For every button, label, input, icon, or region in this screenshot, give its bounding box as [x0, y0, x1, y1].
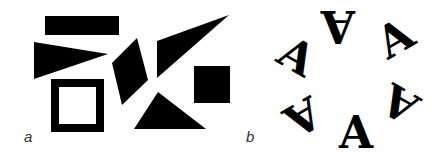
solid-square — [194, 66, 230, 103]
top-bar-rectangle — [45, 16, 119, 35]
letter-a-lower-left: A — [275, 86, 332, 148]
panel-a-label: a — [24, 129, 32, 144]
rhombus-quadrilateral — [112, 38, 148, 105]
figure-canvas: A A A A A A — [0, 0, 447, 167]
letter-a-lower-right: A — [372, 73, 429, 135]
panel-b-letters: A A A A A A — [269, 1, 429, 158]
letter-a-top: A — [320, 1, 356, 52]
panel-a-shapes — [34, 15, 230, 132]
letter-a-upper-left: A — [269, 25, 326, 87]
figure: A A A A A A a b — [0, 0, 447, 167]
outline-square — [51, 79, 104, 132]
panel-b-label: b — [246, 129, 254, 144]
letter-a-upper-right: A — [367, 7, 424, 69]
letter-a-bottom: A — [338, 107, 374, 158]
left-wedge-triangle — [34, 42, 108, 79]
